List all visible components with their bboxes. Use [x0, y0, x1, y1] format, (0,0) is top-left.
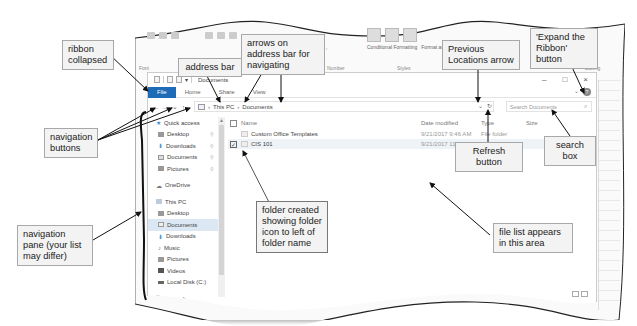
- address-chevron[interactable]: ›: [237, 104, 239, 110]
- font-color-icon[interactable]: [171, 32, 179, 39]
- nav-item-videos[interactable]: Videos: [148, 265, 218, 277]
- nav-item-pc-desktop[interactable]: Desktop: [148, 208, 218, 220]
- group-label-styles: Styles: [397, 65, 411, 71]
- tab-view[interactable]: View: [244, 89, 275, 95]
- back-button[interactable]: ←: [152, 104, 161, 111]
- file-row[interactable]: Custom Office Templates 9/21/2017 9:46 A…: [228, 129, 588, 139]
- cell-styles-icon[interactable]: [403, 28, 417, 42]
- window-controls: – □ ×: [542, 75, 588, 84]
- column-size[interactable]: Size: [526, 120, 566, 126]
- folder-icon: [241, 141, 248, 147]
- details-view-icon[interactable]: [572, 291, 579, 297]
- separator: [163, 76, 164, 83]
- file-name: CIS 101: [251, 141, 273, 147]
- new-folder-icon[interactable]: [167, 76, 173, 83]
- conditional-formatting-button[interactable]: Conditional Formatting: [367, 44, 417, 50]
- address-segment-documents[interactable]: Documents: [242, 104, 272, 110]
- nav-item-pictures[interactable]: Pictures ⚲: [148, 163, 218, 175]
- nav-label: Local Disk (C:): [167, 279, 206, 285]
- nav-item-pictures-pc[interactable]: Pictures: [148, 254, 218, 266]
- nav-pane-scrollbar[interactable]: ▲: [218, 117, 225, 297]
- forward-button[interactable]: →: [161, 104, 170, 111]
- conditional-formatting-icon[interactable]: [367, 28, 381, 42]
- maximize-button[interactable]: □: [562, 75, 567, 84]
- address-actions: ⌄ ↻: [478, 102, 492, 109]
- nav-item-quick-access[interactable]: ★ Quick access: [148, 117, 218, 129]
- nav-label: Desktop: [167, 131, 189, 137]
- window-title: Documents: [198, 77, 228, 83]
- align-right-icon[interactable]: [229, 32, 237, 39]
- separator: [191, 76, 192, 83]
- tab-file[interactable]: File: [148, 87, 176, 98]
- pictures-icon: [158, 166, 164, 171]
- nav-label: Downloads: [166, 233, 196, 239]
- callout-arrows-address-bar: arrows on address bar for navigating: [241, 34, 325, 75]
- refresh-button[interactable]: ↻: [487, 102, 492, 109]
- nav-item-pc-documents[interactable]: Documents: [148, 219, 218, 231]
- borders-icon[interactable]: [147, 32, 155, 39]
- nav-item-onedrive[interactable]: ☁ OneDrive: [148, 180, 218, 192]
- format-table-icon[interactable]: [385, 28, 399, 42]
- file-name-cell: Custom Office Templates: [241, 131, 421, 137]
- callout-search-box: search box: [544, 136, 596, 166]
- file-name-cell: CIS 101: [241, 141, 421, 147]
- nav-label: Documents: [167, 222, 197, 228]
- scroll-up-icon[interactable]: ▲: [218, 117, 225, 123]
- nav-item-documents[interactable]: Documents ⚲: [148, 152, 218, 164]
- pin-icon: ⚲: [210, 143, 214, 149]
- callout-navigation-buttons: navigation buttons: [44, 128, 98, 158]
- address-chevron[interactable]: ›: [208, 104, 210, 110]
- cloud-icon: ☁: [156, 182, 162, 189]
- nav-item-pc-downloads[interactable]: ⬇ Downloads: [148, 231, 218, 243]
- drive-icon: [158, 281, 164, 284]
- recent-locations-button[interactable]: ⌄: [170, 103, 179, 111]
- tab-home[interactable]: Home: [176, 89, 210, 95]
- customize-toolbar-icon[interactable]: ▾: [185, 76, 188, 83]
- align-center-icon[interactable]: [217, 32, 225, 39]
- properties-icon[interactable]: [154, 76, 160, 83]
- previous-locations-button[interactable]: ⌄: [478, 102, 483, 109]
- file-type: File folder: [481, 131, 526, 137]
- fill-color-icon[interactable]: [159, 32, 167, 39]
- nav-item-local-disk[interactable]: Local Disk (C:): [148, 277, 218, 289]
- search-input[interactable]: Search Documents ⌕: [506, 101, 592, 112]
- row-checkbox[interactable]: [230, 131, 237, 138]
- tab-share[interactable]: Share: [210, 89, 244, 95]
- file-name: Custom Office Templates: [251, 131, 318, 137]
- column-name[interactable]: Name: [241, 120, 421, 126]
- nav-item-downloads[interactable]: ⬇ Downloads ⚲: [148, 140, 218, 152]
- up-button[interactable]: ↑: [179, 104, 188, 111]
- minimize-button[interactable]: –: [542, 75, 546, 84]
- scrollbar-thumb[interactable]: [219, 125, 224, 275]
- document-icon: [158, 222, 164, 227]
- help-icon[interactable]: ?: [583, 88, 591, 96]
- select-all-checkbox[interactable]: [230, 120, 237, 127]
- nav-label: OneDrive: [165, 182, 190, 188]
- callout-refresh-button: Refresh button: [455, 142, 523, 172]
- nav-label: Pictures: [167, 166, 189, 172]
- align-left-icon[interactable]: [205, 32, 213, 39]
- videos-icon: [158, 268, 164, 273]
- file-explorer-window: ▾ Documents – □ × File Home Share View ⌄…: [147, 72, 597, 317]
- pin-icon: ⚲: [210, 154, 214, 160]
- address-segment-this-pc[interactable]: This PC: [213, 104, 234, 110]
- desktop-icon: [158, 211, 164, 216]
- nav-label: Desktop: [167, 210, 189, 216]
- nav-item-music[interactable]: ♪ Music: [148, 242, 218, 254]
- callout-address-bar: address bar: [178, 58, 242, 77]
- close-button[interactable]: ×: [583, 75, 588, 84]
- explorer-ribbon-tabs: File Home Share View ⌄ ?: [148, 87, 596, 98]
- column-type[interactable]: Type: [481, 120, 526, 126]
- quick-access-icon[interactable]: [176, 76, 182, 83]
- row-checkbox-checked[interactable]: ✓: [230, 141, 237, 148]
- nav-label: Music: [164, 245, 180, 251]
- file-row-selected[interactable]: ✓ CIS 101 9/21/2017 11:48 ... File folde…: [228, 139, 588, 149]
- nav-item-this-pc[interactable]: This PC: [148, 196, 218, 208]
- address-bar[interactable]: › This PC › Documents: [194, 101, 494, 112]
- expand-ribbon-button[interactable]: ⌄: [574, 87, 579, 94]
- pin-icon: ⚲: [210, 131, 214, 137]
- large-icons-view-icon[interactable]: [581, 291, 588, 297]
- nav-item-desktop[interactable]: Desktop ⚲: [148, 129, 218, 141]
- group-label-font: Font: [139, 65, 149, 71]
- column-date-modified[interactable]: Date modified: [421, 120, 481, 126]
